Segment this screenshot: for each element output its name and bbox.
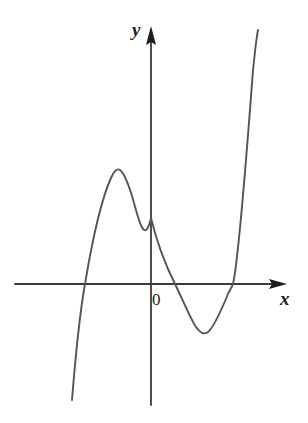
plot-canvas	[0, 0, 308, 423]
origin-label: 0	[152, 291, 161, 308]
graph-figure: y x 0	[0, 0, 308, 423]
cubic-curve	[72, 30, 258, 400]
y-axis-label: y	[132, 20, 140, 39]
x-axis-label: x	[280, 289, 290, 308]
